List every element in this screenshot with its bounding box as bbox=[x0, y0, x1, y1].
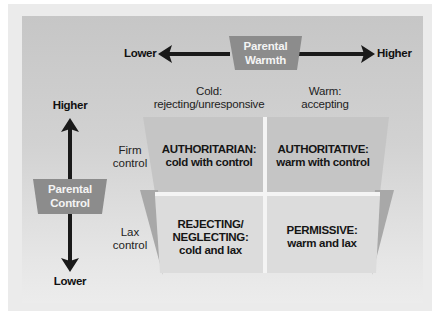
horizontal-divider bbox=[155, 192, 380, 196]
quadrant-permissive: PERMISSIVE: warm and lax bbox=[267, 224, 377, 250]
quadrant-description: warm with control bbox=[267, 156, 379, 169]
quadrant-title-cont: NEGLECTING: bbox=[158, 231, 263, 244]
control-high-label: Higher bbox=[40, 99, 100, 111]
warmth-tag-label: Parental Warmth bbox=[229, 39, 302, 67]
column-header-line2: accepting bbox=[275, 98, 375, 111]
warmth-low-label: Lower bbox=[124, 47, 156, 59]
quadrant-authoritarian: AUTHORITARIAN: cold with control bbox=[155, 143, 263, 169]
row-label-firm: Firm control bbox=[110, 144, 150, 170]
column-header-line2: rejecting/unresponsive bbox=[150, 98, 268, 111]
column-header-line1: Warm: bbox=[275, 85, 375, 98]
quadrant-rejecting-neglecting: REJECTING/ NEGLECTING: cold and lax bbox=[158, 218, 263, 257]
row-label-line1: Lax bbox=[110, 226, 150, 239]
control-low-label: Lower bbox=[40, 275, 100, 287]
quadrant-title: REJECTING/ bbox=[158, 218, 263, 231]
warmth-tag-line1: Parental bbox=[229, 39, 302, 53]
quadrant-authoritative: AUTHORITATIVE: warm with control bbox=[267, 143, 379, 169]
control-tag-line1: Parental bbox=[33, 182, 107, 196]
quadrant-description: cold and lax bbox=[158, 244, 263, 257]
row-label-line1: Firm bbox=[110, 144, 150, 157]
control-tag-label: Parental Control bbox=[33, 182, 107, 210]
quadrant-title: AUTHORITARIAN: bbox=[155, 143, 263, 156]
quadrant-title: AUTHORITATIVE: bbox=[267, 143, 379, 156]
row-label-line2: control bbox=[110, 239, 150, 252]
control-tag-line2: Control bbox=[33, 196, 107, 210]
quadrant-title: PERMISSIVE: bbox=[267, 224, 377, 237]
quadrant-description: warm and lax bbox=[267, 237, 377, 250]
column-header-warm: Warm: accepting bbox=[275, 85, 375, 111]
warmth-high-label: Higher bbox=[377, 47, 412, 59]
row-label-line2: control bbox=[110, 157, 150, 170]
row-label-lax: Lax control bbox=[110, 226, 150, 252]
quadrant-description: cold with control bbox=[155, 156, 263, 169]
column-header-line1: Cold: bbox=[150, 85, 268, 98]
warmth-tag-line2: Warmth bbox=[229, 53, 302, 67]
column-header-cold: Cold: rejecting/unresponsive bbox=[150, 85, 268, 111]
